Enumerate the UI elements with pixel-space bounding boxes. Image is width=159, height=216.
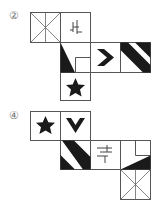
star-icon	[36, 116, 55, 134]
x-cross-icon	[121, 170, 151, 200]
glyph-character-icon	[97, 145, 112, 163]
diagonal-stripes-icon	[61, 141, 91, 170]
cell-glyph	[91, 141, 121, 170]
triangle-corner-square-icon	[121, 141, 151, 170]
chevron-down-icon	[66, 118, 85, 133]
cube-net-option-4	[0, 0, 159, 216]
